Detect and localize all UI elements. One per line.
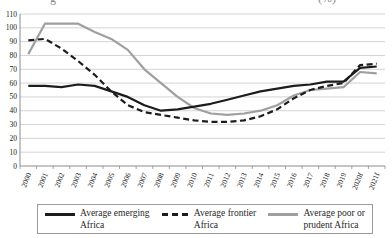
x-tick-label: 2020f <box>350 171 365 191</box>
solid-black-line-icon <box>45 213 75 216</box>
x-tick-label: 2015 <box>268 171 282 189</box>
x-tick-label: 2008 <box>152 171 166 189</box>
x-tick-label: 2018 <box>318 171 332 189</box>
x-tick-label: 2017 <box>301 171 315 189</box>
x-tick-label: 2000 <box>19 171 33 189</box>
figure-line-chart: g (%) 0102030405060708090100110200020012… <box>0 0 392 238</box>
y-tick-label: 40 <box>10 106 18 115</box>
legend-label-line2: Africa <box>194 220 218 230</box>
legend-label: Average emerging Africa <box>80 208 150 232</box>
y-tick-label: 50 <box>10 92 18 101</box>
legend-label-line1: Average poor or <box>303 208 365 218</box>
y-tick-label: 20 <box>10 134 18 143</box>
x-tick-label: 2013 <box>235 171 249 189</box>
x-tick-label: 2002 <box>52 171 66 189</box>
chart-plot-area: 0102030405060708090100110200020012002200… <box>0 0 392 200</box>
legend-label-line1: Average frontier <box>194 208 256 218</box>
x-tick-label: 2003 <box>69 171 83 189</box>
y-tick-label: 30 <box>10 120 18 129</box>
series-line-dashed-black <box>28 39 376 122</box>
y-tick-label: 80 <box>10 51 18 60</box>
x-tick-label: 2021f <box>367 171 382 191</box>
y-tick-label: 90 <box>10 37 18 46</box>
y-tick-label: 60 <box>10 79 18 88</box>
legend-label: Average frontier Africa <box>194 208 256 232</box>
x-tick-label: 2016 <box>285 171 299 189</box>
chart-legend: Average emerging Africa Average frontier… <box>37 204 373 234</box>
dashed-black-line-icon <box>162 213 189 216</box>
legend-item-poor-prudent-africa: Average poor or prudent Africa <box>268 208 365 232</box>
y-tick-label: 10 <box>10 148 18 157</box>
legend-label: Average poor or prudent Africa <box>303 208 365 232</box>
x-tick-label: 2019 <box>334 171 348 189</box>
legend-item-frontier-africa: Average frontier Africa <box>162 208 256 232</box>
legend-item-emerging-africa: Average emerging Africa <box>45 208 150 232</box>
x-tick-label: 2007 <box>135 171 149 189</box>
x-tick-label: 2010 <box>185 171 199 189</box>
y-tick-label: 0 <box>13 162 17 171</box>
x-tick-label: 2011 <box>202 171 216 188</box>
y-tick-label: 110 <box>6 10 17 19</box>
x-tick-label: 2014 <box>251 171 265 189</box>
x-tick-label: 2005 <box>102 171 116 189</box>
legend-label-line2: Africa <box>80 220 104 230</box>
x-tick-label: 2001 <box>36 171 50 189</box>
x-tick-label: 2009 <box>168 171 182 189</box>
solid-gray-line-icon <box>268 213 298 216</box>
legend-label-line2: prudent Africa <box>303 220 358 230</box>
x-tick-label: 2004 <box>86 171 100 189</box>
y-tick-label: 100 <box>6 23 18 32</box>
x-tick-label: 2012 <box>218 171 232 189</box>
y-tick-label: 70 <box>10 65 18 74</box>
legend-label-line1: Average emerging <box>80 208 150 218</box>
x-tick-label: 2006 <box>119 171 133 189</box>
